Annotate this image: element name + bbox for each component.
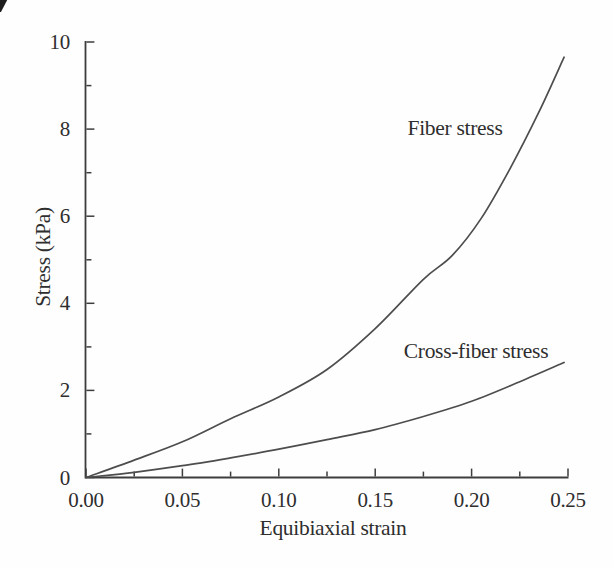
x-tick-label: 0.20 [454, 488, 490, 512]
figure-container: 0.000.050.100.150.200.250246810 Stress (… [0, 0, 613, 567]
x-tick-label: 0.10 [261, 488, 297, 512]
axes [85, 41, 569, 478]
cross-fiber-stress-curve [86, 363, 564, 478]
x-tick-label: 0.15 [357, 488, 393, 512]
y-axis-title: Stress (kPa) [32, 207, 56, 307]
y-tick-label: 6 [60, 204, 70, 228]
fiber-stress-series-label: Fiber stress [408, 117, 503, 141]
plot-area: 0.000.050.100.150.200.250246810 [0, 0, 613, 567]
y-tick-label: 8 [60, 117, 70, 141]
y-tick-label: 4 [60, 291, 71, 315]
x-tick-label: 0.05 [165, 488, 201, 512]
x-axis-title: Equibiaxial strain [260, 517, 407, 541]
x-tick-label: 0.00 [68, 488, 104, 512]
y-tick-label: 10 [50, 30, 70, 54]
cross-fiber-stress-series-label: Cross-fiber stress [404, 340, 548, 364]
y-tick-label: 2 [60, 378, 70, 402]
x-tick-label: 0.25 [550, 488, 586, 512]
y-tick-label: 0 [60, 466, 70, 490]
